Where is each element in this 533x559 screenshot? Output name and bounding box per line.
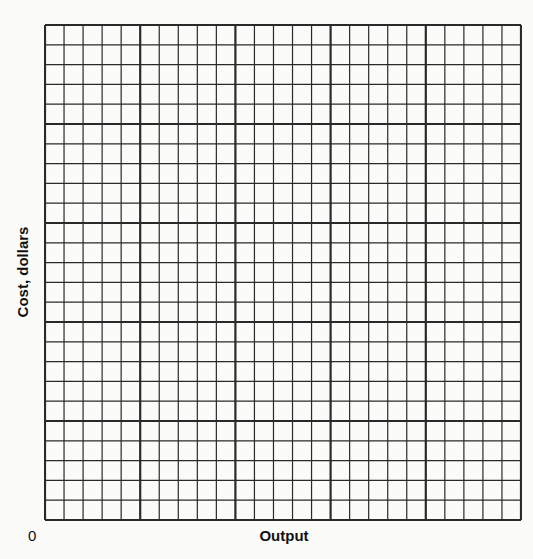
x-axis-label: Output <box>259 527 308 544</box>
origin-label: 0 <box>28 527 36 544</box>
y-axis-label: Cost, dollars <box>14 227 31 318</box>
graph-paper-grid <box>44 24 520 519</box>
grid-lines <box>44 24 522 521</box>
